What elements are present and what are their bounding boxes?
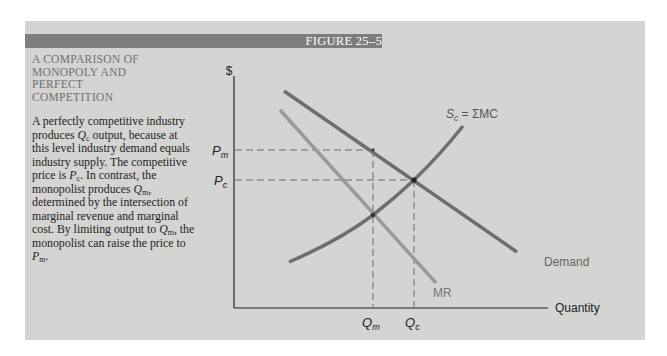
supply-curve-label: Sc = ΣMC xyxy=(446,107,498,123)
qc-tick-sub: c xyxy=(415,322,420,332)
qm-tick-main: Q xyxy=(362,315,372,330)
qm-tick-sub: m xyxy=(372,322,380,332)
x-axis-label: Quantity xyxy=(555,301,600,315)
y-axis-label: $ xyxy=(226,64,233,78)
supply-label-rest: = ΣMC xyxy=(458,107,498,121)
demand-curve-label: Demand xyxy=(544,255,589,269)
pc-tick-main: P xyxy=(214,173,223,188)
mr-mc-intersection-point xyxy=(371,213,375,217)
monopoly-price-point xyxy=(371,148,375,152)
qm-tick-label: Qm xyxy=(362,315,380,332)
qc-tick-label: Qc xyxy=(405,315,420,332)
pc-tick-label: Pc xyxy=(214,173,228,190)
chart-area: $ Quantity Pm Pc Qm Qc Sc = ΣMC Demand M… xyxy=(0,0,667,356)
pc-tick-sub: c xyxy=(223,180,228,190)
supply-label-s: S xyxy=(446,107,454,121)
equilibrium-point xyxy=(411,177,416,182)
qc-tick-main: Q xyxy=(405,315,415,330)
pm-tick-label: Pm xyxy=(212,143,229,160)
pm-tick-main: P xyxy=(212,143,221,158)
pm-tick-sub: m xyxy=(221,150,229,160)
mr-curve-label: MR xyxy=(433,286,452,300)
